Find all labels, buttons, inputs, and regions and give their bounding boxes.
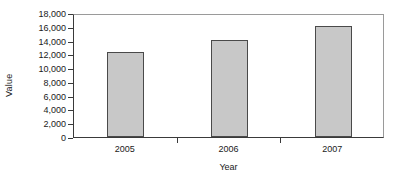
y-axis-tick-label: 6,000: [18, 92, 66, 101]
x-axis-tick-label-group: 200520062007: [73, 144, 384, 157]
y-axis-tick-label: 2,000: [18, 120, 66, 129]
y-axis-tick-label: 12,000: [18, 51, 66, 60]
x-axis-tick-mark-group: [73, 138, 384, 143]
bar-series-value: [74, 15, 383, 137]
x-axis-title: Year: [73, 162, 384, 173]
y-axis-tick-label-group: 18,00016,00014,00012,00010,0008,0006,000…: [18, 14, 66, 138]
y-axis-tick-label: 4,000: [18, 106, 66, 115]
x-axis-tick-label-2005: 2005: [73, 144, 177, 155]
y-axis-tick-label: 16,000: [18, 23, 66, 32]
bar-chart-figure: Value 18,00016,00014,00012,00010,0008,00…: [0, 0, 400, 182]
y-axis-title: Value: [2, 50, 16, 120]
x-axis-tick-label-2006: 2006: [177, 144, 281, 155]
x-axis-tick-mark: [177, 138, 178, 143]
bar-2005: [107, 52, 144, 137]
x-axis-tick-mark: [280, 138, 281, 143]
y-axis-tick-label: 8,000: [18, 78, 66, 87]
bar-2007: [315, 26, 352, 137]
y-axis-tick-label: 18,000: [18, 10, 66, 19]
y-axis-tick-label: 10,000: [18, 65, 66, 74]
plot-area: [73, 14, 384, 138]
y-axis-tick-label: 14,000: [18, 37, 66, 46]
x-axis-tick-label-2007: 2007: [280, 144, 384, 155]
bar-2006: [211, 40, 248, 137]
y-axis-tick-label: 0: [18, 134, 66, 143]
